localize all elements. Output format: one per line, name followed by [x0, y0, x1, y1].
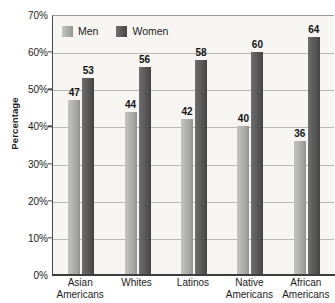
x-axis-label-line2: Americans — [52, 289, 108, 301]
legend-label-women: Women — [132, 25, 168, 37]
plot-area: 47534456425840603664 — [52, 15, 334, 275]
x-axis-label-line2: Americans — [278, 289, 334, 301]
bar-men[interactable]: 36 — [294, 141, 306, 275]
bar-women[interactable]: 53 — [82, 78, 94, 275]
legend-item-women[interactable]: Women — [116, 25, 168, 37]
x-axis-label: Latinos — [165, 277, 221, 289]
bar-value-label: 64 — [308, 24, 319, 35]
bar-value-label: 44 — [125, 99, 136, 110]
bar-men[interactable]: 40 — [237, 126, 249, 275]
x-axis-label-line1: Asian — [52, 277, 108, 289]
y-tick-mark — [48, 237, 52, 238]
bar-value-label: 60 — [252, 39, 263, 50]
bar-group: 4456 — [125, 16, 151, 275]
y-tick-label: 10% — [2, 232, 48, 243]
bar-women[interactable]: 58 — [195, 60, 207, 275]
bar-group: 4258 — [181, 16, 207, 275]
bar-value-label: 47 — [69, 87, 80, 98]
bar-women[interactable]: 56 — [139, 67, 151, 275]
y-tick-label: 40% — [2, 121, 48, 132]
bar-group: 4753 — [68, 16, 94, 275]
y-tick-label: 50% — [2, 84, 48, 95]
x-axis-label-line1: Native — [221, 277, 277, 289]
x-axis-labels: AsianAmericansWhitesLatinosNativeAmerica… — [52, 277, 335, 303]
bar-women[interactable]: 64 — [308, 37, 320, 275]
x-axis-label-line1: Latinos — [165, 277, 221, 289]
x-axis-label-line2: Americans — [221, 289, 277, 301]
x-axis-label: AsianAmericans — [52, 277, 108, 301]
legend-swatch-women-icon — [116, 26, 127, 37]
legend: Men Women — [62, 25, 168, 37]
legend-label-men: Men — [78, 25, 98, 37]
bar-value-label: 42 — [181, 106, 192, 117]
x-axis-label-line1: African — [278, 277, 334, 289]
x-axis-label: Whites — [108, 277, 164, 289]
y-tick-label: 70% — [2, 10, 48, 21]
bar-men[interactable]: 44 — [125, 112, 137, 275]
bar-women[interactable]: 60 — [251, 52, 263, 275]
x-axis-label: NativeAmericans — [221, 277, 277, 301]
y-tick-label: 0% — [2, 270, 48, 281]
bar-men[interactable]: 47 — [68, 100, 80, 275]
bar-value-label: 36 — [294, 128, 305, 139]
bar-men[interactable]: 42 — [181, 119, 193, 275]
bar-value-label: 53 — [83, 65, 94, 76]
y-tick-label: 60% — [2, 47, 48, 58]
x-axis-line — [52, 274, 335, 276]
y-tick-label: 30% — [2, 158, 48, 169]
legend-swatch-men-icon — [62, 26, 73, 37]
bar-group: 4060 — [237, 16, 263, 275]
y-tick-mark — [48, 89, 52, 90]
bar-value-label: 40 — [238, 113, 249, 124]
legend-item-men[interactable]: Men — [62, 25, 98, 37]
y-tick-mark — [48, 200, 52, 201]
y-tick-mark — [48, 163, 52, 164]
bar-group: 3664 — [294, 16, 320, 275]
bar-value-label: 58 — [195, 47, 206, 58]
y-tick-label: 20% — [2, 195, 48, 206]
x-axis-label: AfricanAmericans — [278, 277, 334, 301]
y-tick-mark — [48, 51, 52, 52]
x-axis-label-line1: Whites — [108, 277, 164, 289]
bar-value-label: 56 — [139, 54, 150, 65]
bar-chart: Percentage 47534456425840603664 0%10%20%… — [0, 0, 335, 303]
y-tick-mark — [48, 126, 52, 127]
